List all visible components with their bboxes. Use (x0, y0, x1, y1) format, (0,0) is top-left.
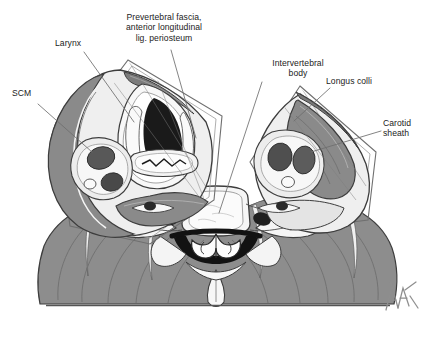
right-carotid-sheath (254, 130, 324, 198)
esophagus (130, 150, 198, 177)
anatomy-illustration (0, 0, 432, 341)
label-intervertebral-body: Intervertebral body (272, 58, 323, 79)
label-carotid-sheath: Carotid sheath (383, 118, 411, 139)
anatomy-figure: SCMLarynxPrevertebral fascia, anterior l… (0, 0, 432, 341)
label-longus-colli: Longus colli (326, 76, 372, 86)
label-scm: SCM (12, 88, 31, 98)
label-prevertebral-fascia: Prevertebral fascia, anterior longitudin… (126, 12, 202, 43)
label-larynx: Larynx (55, 38, 81, 48)
